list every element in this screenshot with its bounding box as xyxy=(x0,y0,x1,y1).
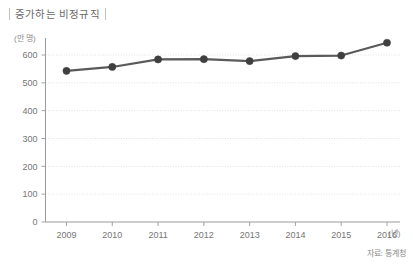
y-axis-tick-label: 100 xyxy=(22,189,37,199)
x-axis-tick-label: 2015 xyxy=(331,230,351,240)
y-axis-tick-label: 500 xyxy=(22,78,37,88)
x-axis-tick-label: 2013 xyxy=(240,230,260,240)
data-markers-group xyxy=(63,39,391,74)
y-axis-tick-label: 400 xyxy=(22,106,37,116)
chart-figure: 증가하는 비정규직 (만 명) (년) 자료: 통계청 010020030040… xyxy=(0,0,413,275)
x-axis-tick-label: 2014 xyxy=(285,230,305,240)
data-point-marker xyxy=(200,56,207,63)
data-point-marker xyxy=(383,39,390,46)
gridlines-group xyxy=(46,55,401,194)
y-axis-ticks-group xyxy=(42,55,46,222)
y-axis-tick-label: 200 xyxy=(22,162,37,172)
x-axis-tick-label: 2012 xyxy=(194,230,214,240)
x-axis-tick-label: 2011 xyxy=(148,230,167,240)
x-axis-tick-label: 2010 xyxy=(102,230,122,240)
x-axis-tick-label: 2009 xyxy=(56,230,76,240)
data-point-marker xyxy=(338,52,345,59)
data-point-marker xyxy=(246,58,253,65)
x-axis-tick-label: 2016 xyxy=(377,230,397,240)
data-point-marker xyxy=(154,56,161,63)
x-axis-ticks-group xyxy=(67,222,388,226)
line-chart-svg: 0100200300400500600 20092010201120122013… xyxy=(0,0,413,275)
plot-area: 0100200300400500600 20092010201120122013… xyxy=(0,0,413,275)
data-point-marker xyxy=(292,53,299,60)
y-axis-tick-label: 300 xyxy=(22,134,37,144)
y-axis-labels-group: 0100200300400500600 xyxy=(22,50,37,227)
y-axis-tick-label: 600 xyxy=(22,50,37,60)
y-axis-tick-label: 0 xyxy=(32,217,37,227)
x-axis-labels-group: 20092010201120122013201420152016 xyxy=(56,230,397,240)
data-point-marker xyxy=(63,67,70,74)
data-point-marker xyxy=(109,63,116,70)
